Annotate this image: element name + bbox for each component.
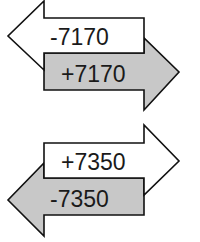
arrow-label-bottom: -7350 xyxy=(50,186,109,212)
arrow-diagram: -7170 +7170 +7350 -7350 xyxy=(0,0,200,242)
arrow-label-bottom: +7170 xyxy=(61,61,126,87)
arrow-label-top: -7170 xyxy=(50,24,109,50)
arrow-pair-1: -7170 +7170 xyxy=(8,1,179,110)
arrow-label-top: +7350 xyxy=(61,149,126,175)
arrow-pair-2: +7350 -7350 xyxy=(8,125,179,236)
